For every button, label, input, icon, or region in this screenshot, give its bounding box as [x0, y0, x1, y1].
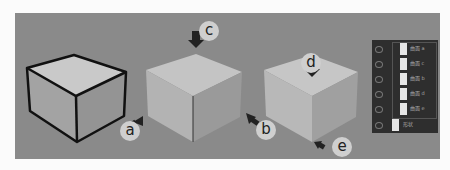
- layer-thumbnail: [400, 58, 407, 70]
- layer-name: 曲面 b: [410, 74, 425, 81]
- layer-row[interactable]: 曲面 b: [372, 72, 438, 86]
- outline-cube: [27, 55, 126, 142]
- eye-icon[interactable]: [375, 106, 383, 113]
- layer-thumbnail: [400, 103, 407, 115]
- label-d: d: [301, 53, 321, 73]
- eye-icon[interactable]: [375, 46, 383, 53]
- label-a: a: [120, 121, 140, 141]
- layer-row[interactable]: 形状: [372, 118, 438, 132]
- layers-panel: 曲面 a 曲面 c 曲面 b 曲面 d 曲面 e 形状: [372, 40, 438, 133]
- layer-name: 曲面 e: [410, 104, 425, 111]
- eye-icon[interactable]: [375, 91, 383, 98]
- layer-name: 曲面 d: [410, 89, 425, 96]
- layer-thumbnail: [392, 119, 399, 131]
- layer-thumbnail: [400, 73, 407, 85]
- layer-thumbnail: [400, 88, 407, 100]
- label-b: b: [256, 120, 276, 140]
- shaded-cube-1: [146, 54, 242, 142]
- layer-row[interactable]: 曲面 c: [372, 57, 438, 71]
- layer-name: 曲面 a: [410, 44, 425, 51]
- label-c: c: [199, 21, 219, 41]
- layer-row[interactable]: 曲面 d: [372, 87, 438, 101]
- eye-icon[interactable]: [375, 61, 383, 68]
- layer-row[interactable]: 曲面 e: [372, 102, 438, 116]
- layer-name: 曲面 c: [410, 59, 424, 66]
- layer-name: 形状: [403, 120, 413, 127]
- label-e: e: [332, 137, 352, 157]
- eye-icon[interactable]: [375, 76, 383, 83]
- eye-icon[interactable]: [375, 122, 383, 129]
- layer-thumbnail: [400, 43, 407, 55]
- layer-row[interactable]: 曲面 a: [372, 42, 438, 56]
